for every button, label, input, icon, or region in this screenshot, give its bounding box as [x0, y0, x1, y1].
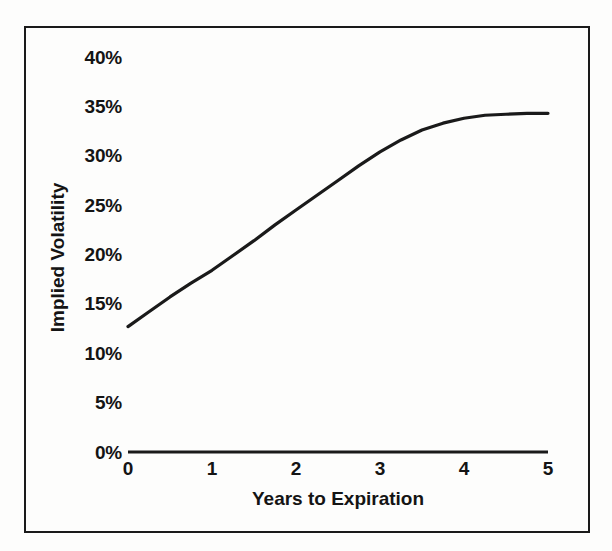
x-axis-title: Years to Expiration	[128, 489, 548, 508]
y-tick-label-25: 25%	[62, 196, 122, 215]
x-tick-label-4: 4	[444, 459, 484, 478]
y-tick-label-30: 30%	[62, 146, 122, 165]
chart-figure: 40% 35% 30% 25% 20% 15% 10% 5% 0% 0 1 2 …	[0, 0, 612, 551]
x-tick-label-0: 0	[108, 459, 148, 478]
y-tick-label-20: 20%	[62, 245, 122, 264]
y-tick-label-40: 40%	[62, 48, 122, 67]
x-tick-label-1: 1	[192, 459, 232, 478]
y-axis-title: Implied Volatility	[48, 148, 67, 368]
series-group	[128, 113, 548, 326]
x-tick-label-3: 3	[360, 459, 400, 478]
implied-volatility-line	[128, 113, 548, 326]
y-tick-label-5: 5%	[62, 393, 122, 412]
y-tick-label-15: 15%	[62, 294, 122, 313]
y-tick-label-10: 10%	[62, 344, 122, 363]
y-tick-label-35: 35%	[62, 97, 122, 116]
x-tick-label-5: 5	[528, 459, 568, 478]
x-tick-label-2: 2	[276, 459, 316, 478]
